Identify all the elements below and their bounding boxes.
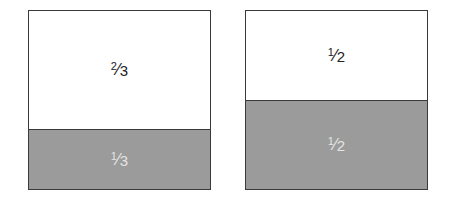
bottom-part-one-half: 1⁄2 <box>246 100 427 189</box>
fraction-label: 2⁄3 <box>111 60 128 80</box>
fraction-label: 1⁄2 <box>328 46 345 66</box>
halves-square: 1⁄2 1⁄2 <box>245 10 428 190</box>
bottom-part-one-third: 1⁄3 <box>29 129 210 189</box>
top-part-two-thirds: 2⁄3 <box>29 11 210 129</box>
fraction-label: 1⁄3 <box>111 150 128 170</box>
fraction-label: 1⁄2 <box>328 135 345 155</box>
top-part-one-half: 1⁄2 <box>246 11 427 100</box>
thirds-square: 2⁄3 1⁄3 <box>28 10 211 190</box>
